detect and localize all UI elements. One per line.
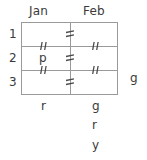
- footer-feb-letter-2: r: [92, 119, 97, 131]
- diagram-canvas: Jan Feb 1 2 3 p r g r y g: [0, 0, 147, 160]
- row-header-3: 3: [9, 76, 17, 88]
- row-header-2: 2: [9, 52, 17, 64]
- side-label-right: g: [130, 72, 138, 84]
- footer-jan-letter-1: r: [41, 100, 46, 112]
- footer-feb-letter-3: y: [92, 139, 99, 151]
- footer-feb-letter-1: g: [92, 100, 100, 112]
- row-header-1: 1: [9, 28, 17, 40]
- column-header-jan: Jan: [29, 5, 48, 17]
- column-header-feb: Feb: [83, 5, 105, 17]
- grid-vline-1: [70, 22, 71, 95]
- cell-jan-row2: p: [39, 52, 47, 64]
